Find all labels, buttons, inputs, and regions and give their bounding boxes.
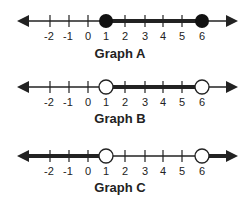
open-endpoint-6: [195, 80, 209, 94]
graph-c: -2 -1 0 1 2 3 4 5 6 Graph C: [17, 149, 238, 195]
tick-label: 1: [103, 30, 109, 42]
arrow-left-icon: [17, 15, 29, 27]
tick-label: -1: [63, 165, 73, 177]
tick-label: 5: [179, 30, 185, 42]
tick-label: 6: [199, 165, 205, 177]
tick-label: 0: [85, 96, 91, 108]
tick-label: 6: [199, 30, 205, 42]
closed-endpoint-1: [99, 14, 113, 28]
tick-label: -1: [63, 30, 73, 42]
tick-label: 3: [142, 96, 148, 108]
arrow-left-icon: [17, 81, 29, 93]
tick-label: 2: [122, 165, 128, 177]
arrow-right-icon: [226, 15, 238, 27]
tick-label: 3: [142, 30, 148, 42]
graph-title: Graph B: [94, 111, 145, 126]
tick-label: -2: [44, 30, 54, 42]
graph-title: Graph A: [95, 46, 146, 61]
graph-a: -2 -1 0 1 2 3 4 5 6 Graph A: [17, 14, 238, 61]
tick-label: -2: [44, 96, 54, 108]
tick-label: 2: [122, 30, 128, 42]
tick-label: 4: [160, 96, 166, 108]
tick-label: -2: [44, 165, 54, 177]
tick-label: 0: [85, 30, 91, 42]
graph-b: -2 -1 0 1 2 3 4 5 6 Graph B: [17, 80, 238, 126]
arrow-left-icon: [17, 150, 29, 162]
tick-label: 4: [160, 165, 166, 177]
arrow-right-icon: [226, 81, 238, 93]
tick-label: 3: [142, 165, 148, 177]
tick-label: 5: [179, 96, 185, 108]
closed-endpoint-6: [195, 14, 209, 28]
open-endpoint-6: [195, 149, 209, 163]
tick-label: -1: [63, 96, 73, 108]
open-endpoint-1: [99, 80, 113, 94]
number-line-figure: -2 -1 0 1 2 3 4 5 6 Graph A -2 -1: [0, 0, 249, 210]
tick-label: 2: [122, 96, 128, 108]
tick-label: 0: [85, 165, 91, 177]
tick-label: 1: [103, 96, 109, 108]
tick-label: 5: [179, 165, 185, 177]
graph-title: Graph C: [94, 180, 146, 195]
tick-label: 4: [160, 30, 166, 42]
tick-label: 6: [199, 96, 205, 108]
open-endpoint-1: [99, 149, 113, 163]
tick-label: 1: [103, 165, 109, 177]
arrow-right-icon: [226, 150, 238, 162]
